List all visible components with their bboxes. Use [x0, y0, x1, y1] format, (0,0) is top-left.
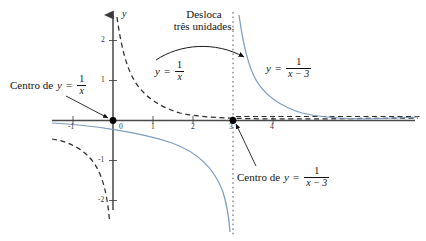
fraction-denominator: x − 3: [304, 178, 329, 189]
shift-arrow: [156, 46, 244, 60]
plot-canvas: [0, 0, 426, 241]
annotation-center-original-lhs: y: [57, 79, 62, 91]
fraction-numerator: 1: [175, 60, 184, 71]
curve-label-shifted-lhs: y: [266, 62, 271, 74]
x-tick-label-1: 1: [151, 123, 155, 131]
curve-label-shifted-fraction: 1 x − 3: [286, 57, 311, 80]
annotation-center-shifted: Centro de y = 1 x − 3: [237, 166, 330, 189]
annotation-center-shifted-text: Centro de: [237, 171, 280, 183]
y-tick-label-neg2: -2: [98, 196, 104, 204]
annotation-center-original-fraction: 1 x: [77, 74, 86, 97]
curve-label-original-lhs: y: [155, 65, 160, 77]
x-tick-label-2: 2: [191, 123, 195, 131]
shift-note-line1: Desloca: [158, 8, 250, 20]
fraction-numerator: 1: [286, 57, 311, 68]
shift-note: Desloca três unidades.: [158, 8, 250, 33]
curve-label-original-fraction: 1 x: [175, 60, 184, 83]
curve-shifted-branch-negative: [52, 123, 230, 232]
leader-arrow-center-original: [66, 96, 108, 118]
point-center-original: [110, 117, 117, 124]
curve-label-original: y = 1 x: [155, 60, 185, 83]
x-tick-label-neg1: -1: [68, 123, 74, 131]
annotation-center-original-text: Centro de: [10, 79, 53, 91]
annotation-center-shifted-fraction: 1 x − 3: [304, 166, 329, 189]
curve-original-branch-negative: [52, 139, 110, 221]
annotation-center-shifted-lhs: y: [284, 171, 289, 183]
x-tick-label-0: 0: [119, 123, 123, 131]
fraction-denominator: x: [175, 72, 184, 83]
graph-figure: y -1 0 1 2 3 4 2 1 -1 -2 Desloca três un…: [0, 0, 426, 241]
fraction-denominator: x − 3: [286, 69, 311, 80]
curve-label-original-op: =: [164, 65, 170, 77]
fraction-numerator: 1: [304, 166, 329, 177]
y-tick-label-2: 2: [101, 36, 105, 44]
fraction-numerator: 1: [77, 74, 86, 85]
shift-note-line2: três unidades.: [158, 20, 250, 32]
annotation-center-shifted-op: =: [293, 171, 299, 183]
curve-label-shifted-op: =: [275, 62, 281, 74]
annotation-center-original-op: =: [66, 79, 72, 91]
x-tick-label-4: 4: [270, 123, 274, 131]
y-tick-label-1: 1: [101, 76, 105, 84]
curve-label-shifted: y = 1 x − 3: [266, 57, 312, 80]
x-tick-label-3: 3: [229, 123, 233, 131]
annotation-center-original: Centro de y = 1 x: [10, 74, 87, 97]
leader-arrow-center-shifted: [236, 124, 256, 166]
fraction-denominator: x: [77, 86, 86, 97]
y-axis-label: y: [122, 8, 126, 19]
y-axis: [109, 15, 117, 210]
y-tick-label-neg1: -1: [98, 156, 104, 164]
